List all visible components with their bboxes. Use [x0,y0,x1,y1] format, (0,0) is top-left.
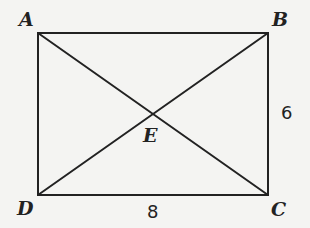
intersection-label-e: E [143,126,157,145]
rectangle-diagram [0,0,310,228]
vertex-label-b: B [272,10,288,29]
side-length-dc: 8 [147,203,158,221]
geometry-figure: A B C D E 6 8 [0,0,310,228]
vertex-label-a: A [19,10,34,29]
vertex-label-c: C [271,200,286,219]
vertex-label-d: D [17,199,33,218]
side-length-bc: 6 [281,104,292,122]
